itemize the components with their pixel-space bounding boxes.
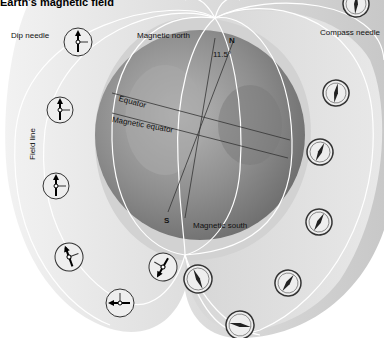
continent-shape	[218, 85, 282, 165]
angle-label: 11.5°	[213, 50, 231, 59]
diagram-title: Earth's magnetic field	[0, 0, 114, 8]
magnetic-south-label: Magnetic south	[193, 221, 247, 230]
geographic-south-label: S	[164, 216, 169, 225]
compass-needle-label: Compass needle	[320, 28, 380, 37]
magnetic-field-diagram	[0, 0, 384, 338]
magnetic-north-label: Magnetic north	[137, 31, 190, 40]
dip-needle-label: Dip needle	[11, 31, 49, 40]
field-line-label: Field line	[28, 128, 37, 160]
geographic-north-label: N	[229, 36, 235, 45]
